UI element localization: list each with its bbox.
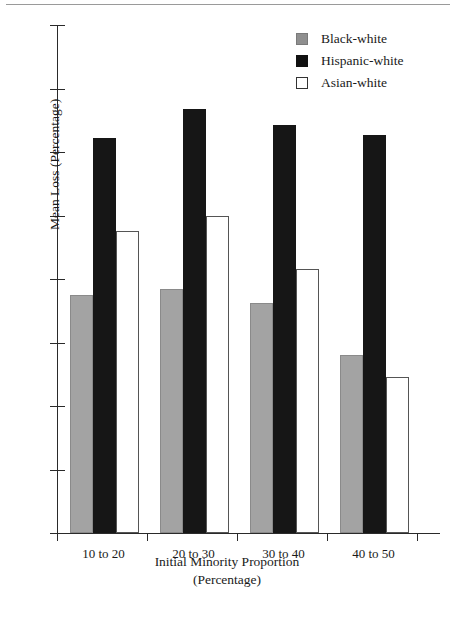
bar-black-white-30-to-40 (250, 303, 273, 533)
x-axis-title-line-2: (Percentage) (0, 571, 454, 589)
bar-asian-white-10-to-20 (116, 231, 139, 533)
black-square-swatch (296, 55, 308, 67)
x-axis-tick (147, 533, 148, 541)
bar-asian-white-30-to-40 (296, 269, 319, 533)
x-axis-tick (237, 533, 238, 541)
bars-layer (58, 25, 440, 533)
x-axis-tick (57, 533, 58, 541)
x-axis-title-line-1: Initial Minority Proportion (155, 554, 300, 569)
x-axis-line (57, 533, 440, 534)
bar-hispanic-white-40-to-50 (363, 135, 386, 533)
bar-hispanic-white-10-to-20 (93, 138, 116, 533)
legend-item-hispanic-white: Hispanic-white (296, 50, 454, 72)
white-square-swatch (296, 77, 308, 89)
bar-hispanic-white-30-to-40 (273, 125, 296, 533)
legend-item-label: Asian-white (321, 76, 387, 90)
x-axis-title: Initial Minority Proportion (Percentage) (0, 553, 454, 589)
bar-black-white-10-to-20 (70, 295, 93, 533)
legend: Black-whiteHispanic-whiteAsian-white (296, 28, 454, 94)
top-divider-rule (6, 4, 450, 5)
gray-square-swatch (296, 33, 308, 45)
legend-item-label: Hispanic-white (321, 54, 403, 68)
plot-area: 0246810121416 10 to 2020 to 3030 to 4040… (57, 25, 440, 533)
bar-asian-white-40-to-50 (386, 377, 409, 533)
bar-hispanic-white-20-to-30 (183, 109, 206, 533)
legend-item-asian-white: Asian-white (296, 72, 454, 94)
bar-chart-figure: 0246810121416 10 to 2020 to 3030 to 4040… (0, 0, 454, 618)
bar-black-white-20-to-30 (160, 289, 183, 533)
bar-black-white-40-to-50 (340, 355, 363, 533)
legend-item-black-white: Black-white (296, 28, 454, 50)
legend-item-label: Black-white (321, 32, 387, 46)
x-axis-tick (417, 533, 418, 541)
y-axis-title: Mean Loss (Percentage) (47, 10, 63, 230)
x-axis-tick (327, 533, 328, 541)
bar-asian-white-20-to-30 (206, 216, 229, 534)
